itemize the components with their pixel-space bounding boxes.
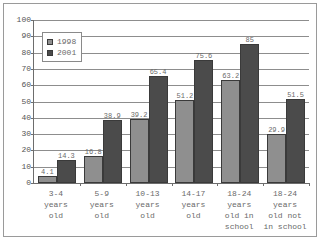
bar-value-label: 38.9 bbox=[104, 113, 121, 120]
y-tick-label: 80 bbox=[21, 49, 31, 57]
category-label-line: old bbox=[33, 210, 79, 221]
x-tick-mark bbox=[80, 183, 81, 186]
y-tick-label: 100 bbox=[17, 16, 31, 24]
bar-value-label: 4.1 bbox=[41, 169, 54, 176]
category-label-line: old not bbox=[262, 210, 308, 221]
x-axis-category-label: 18-24yearsold notin school bbox=[262, 188, 308, 232]
y-tick-label: 70 bbox=[21, 65, 31, 73]
x-tick-mark bbox=[263, 183, 264, 186]
category-label-line: old bbox=[125, 210, 171, 221]
category-label-line: years bbox=[79, 199, 125, 210]
category-label-line: school bbox=[216, 221, 262, 232]
category-label-line: 14-17 bbox=[171, 188, 217, 199]
bar-2001: 65.4 bbox=[149, 76, 168, 183]
bar-value-label: 75.6 bbox=[196, 53, 213, 60]
bar-value-label: 65.4 bbox=[150, 69, 167, 76]
bar-value-label: 85 bbox=[246, 37, 254, 44]
x-axis-labels: 3-4yearsold5-9yearsold10-13yearsold14-17… bbox=[33, 188, 308, 243]
x-axis-category-label: 10-13yearsold bbox=[125, 188, 171, 221]
category-label-line: 3-4 bbox=[33, 188, 79, 199]
x-tick-mark bbox=[309, 183, 310, 186]
x-axis-category-label: 3-4yearsold bbox=[33, 188, 79, 221]
bar-1998: 16.8 bbox=[84, 156, 103, 183]
bar-group: 51.275.6 bbox=[172, 20, 218, 183]
bar-value-label: 14.3 bbox=[58, 153, 75, 160]
category-label-line: 18-24 bbox=[262, 188, 308, 199]
bar-2001: 38.9 bbox=[103, 120, 122, 183]
bar-1998: 63.2 bbox=[221, 80, 240, 183]
y-tick-label: 30 bbox=[21, 130, 31, 138]
legend-label-1998: 1998 bbox=[57, 38, 76, 46]
legend-label-2001: 2001 bbox=[57, 49, 76, 57]
x-tick-mark bbox=[126, 183, 127, 186]
legend-item-1998: 1998 bbox=[47, 36, 76, 47]
bar-2001: 51.5 bbox=[286, 99, 305, 183]
x-tick-mark bbox=[172, 183, 173, 186]
category-label-line: old bbox=[171, 210, 217, 221]
legend-swatch-2001 bbox=[47, 50, 53, 56]
category-label-line: old in bbox=[216, 210, 262, 221]
bar-group: 63.285 bbox=[217, 20, 263, 183]
bar-1998: 39.2 bbox=[130, 119, 149, 183]
y-tick-label: 40 bbox=[21, 114, 31, 122]
category-label-line: 10-13 bbox=[125, 188, 171, 199]
category-label-line: years bbox=[125, 199, 171, 210]
legend-swatch-1998 bbox=[47, 39, 53, 45]
bar-2001: 75.6 bbox=[194, 60, 213, 183]
category-label-line: 5-9 bbox=[79, 188, 125, 199]
category-label-line: in school bbox=[262, 221, 308, 232]
y-tick-mark bbox=[31, 183, 34, 184]
bar-1998: 51.2 bbox=[175, 100, 194, 183]
x-tick-mark bbox=[217, 183, 218, 186]
category-label-line: years bbox=[171, 199, 217, 210]
bar-value-label: 16.8 bbox=[85, 149, 102, 156]
y-tick-label: 60 bbox=[21, 81, 31, 89]
y-tick-label: 90 bbox=[21, 32, 31, 40]
bar-1998: 4.1 bbox=[38, 176, 57, 183]
category-label-line: years bbox=[262, 199, 308, 210]
category-label-line: years bbox=[33, 199, 79, 210]
bar-group: 16.838.9 bbox=[80, 20, 126, 183]
chart-frame: 0102030405060708090100 4.114.316.838.939… bbox=[3, 3, 317, 237]
y-tick-label: 10 bbox=[21, 163, 31, 171]
x-axis-category-label: 14-17yearsold bbox=[171, 188, 217, 221]
bar-value-label: 51.5 bbox=[287, 92, 304, 99]
bar-group: 29.951.5 bbox=[263, 20, 309, 183]
x-axis-category-label: 18-24yearsold inschool bbox=[216, 188, 262, 232]
legend-item-2001: 2001 bbox=[47, 47, 76, 58]
bar-value-label: 39.2 bbox=[131, 112, 148, 119]
y-tick-label: 20 bbox=[21, 146, 31, 154]
chart-legend: 1998 2001 bbox=[42, 32, 82, 62]
bar-value-label: 63.2 bbox=[222, 73, 239, 80]
category-label-line: old bbox=[79, 210, 125, 221]
bar-value-label: 51.2 bbox=[177, 93, 194, 100]
bar-value-label: 29.9 bbox=[268, 127, 285, 134]
y-tick-label: 50 bbox=[21, 98, 31, 106]
y-tick-label: 0 bbox=[26, 179, 31, 187]
x-axis-category-label: 5-9yearsold bbox=[79, 188, 125, 221]
category-label-line: 18-24 bbox=[216, 188, 262, 199]
category-label-line: years bbox=[216, 199, 262, 210]
bar-2001: 85 bbox=[240, 44, 259, 183]
bar-1998: 29.9 bbox=[267, 134, 286, 183]
bar-group: 39.265.4 bbox=[126, 20, 172, 183]
bar-2001: 14.3 bbox=[57, 160, 76, 183]
